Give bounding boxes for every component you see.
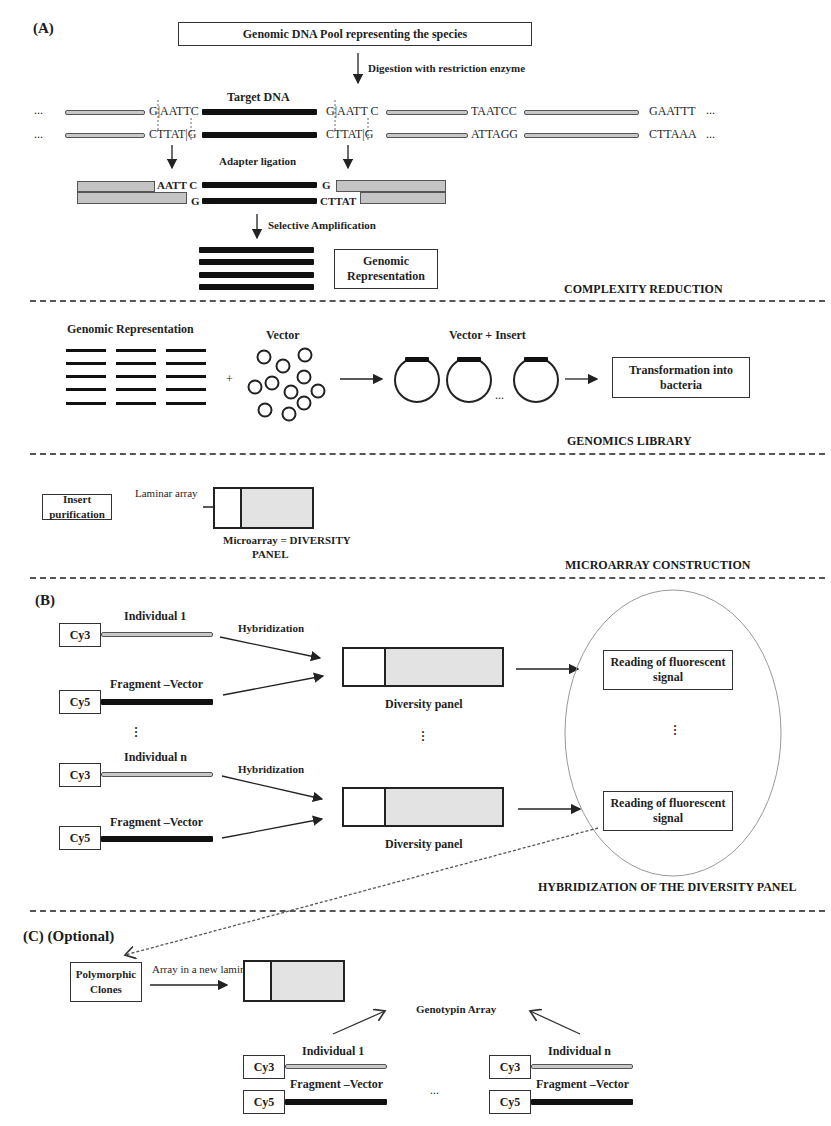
individual-n-label-c: Individual n [548, 1044, 611, 1059]
diversity-panel-caption: Diversity panel [385, 837, 463, 852]
cy5-label-box: Cy5 [59, 826, 101, 850]
fragment-vector-label: Fragment –Vector [110, 677, 203, 692]
grey-strand [65, 110, 145, 115]
fragment-vector-strand [531, 1099, 633, 1105]
individual-strand [285, 1064, 387, 1069]
diversity-panel-caption: Diversity panel [385, 697, 463, 712]
reading-signal-box-1: Reading of fluorescent signal [603, 650, 733, 690]
section-divider [30, 910, 825, 912]
ligated-strand [202, 182, 317, 188]
fragment-vector-label: Fragment –Vector [110, 815, 203, 830]
grey-strand [386, 133, 468, 138]
amplified-strand [199, 284, 314, 290]
genomic-representation-label: Genomic Representation [67, 322, 194, 337]
vector-insert-label: Vector + Insert [449, 328, 526, 343]
grey-strand [386, 110, 468, 115]
section-title-hybridization: HYBRIDIZATION OF THE DIVERSITY PANEL [538, 880, 797, 895]
seq-attagg: ATTAGG [471, 127, 518, 142]
microarray-diversity-panel [213, 487, 314, 529]
seq-top-left-site: G|AATTC [149, 104, 199, 119]
adapter-ligation-label: Adapter ligation [219, 155, 296, 167]
section-divider [30, 300, 825, 302]
cy3-label-box: Cy3 [59, 763, 101, 787]
ligated-strand [202, 198, 317, 204]
section-divider [30, 577, 825, 579]
vector-plasmids [249, 349, 325, 421]
microarray-caption-line1: Microarray = DIVERSITY [223, 534, 351, 546]
seq-gaattt: GAATTT [649, 104, 696, 119]
seq-aatt-c: AATT C [157, 179, 197, 191]
diversity-panel-1 [342, 647, 504, 687]
grey-strand [65, 133, 145, 138]
cy3-label-box: Cy3 [243, 1055, 285, 1079]
amplified-strand [199, 259, 314, 265]
cy5-label-box: Cy5 [489, 1090, 531, 1114]
adapter-block [77, 181, 155, 192]
recombinant-plasmids [395, 358, 558, 402]
ellipsis-bottom-right: ... [706, 127, 715, 142]
ellipsis-bottom-left: ... [34, 127, 43, 142]
polymorphic-link-arrow [125, 828, 598, 955]
diversity-panel-n [342, 787, 504, 827]
microarray-caption-line2: PANEL [252, 548, 288, 560]
adapter-block [336, 180, 446, 192]
ellipsis-top-right: ... [706, 103, 715, 118]
section-title-genomics-library: GENOMICS LIBRARY [567, 434, 692, 449]
cy5-label-box: Cy5 [59, 690, 101, 714]
genomic-representation-box: Genomic Representation [334, 249, 438, 289]
individual-strand [101, 632, 213, 637]
hybridization-label: Hybridization [238, 763, 304, 775]
amplified-strand [199, 272, 314, 278]
fragment-vector-strand [285, 1099, 387, 1105]
cy5-label-box: Cy5 [243, 1090, 285, 1114]
genotyping-array-caption: Genotypin Array [416, 1003, 496, 1015]
grey-strand [524, 133, 639, 138]
fragment-vector-label-c: Fragment –Vector [536, 1077, 629, 1092]
adapter-block [360, 192, 446, 204]
individual-strand [531, 1064, 633, 1069]
cy3-label-box: Cy3 [59, 623, 101, 647]
genotyping-array [243, 960, 345, 1002]
plasmid-ellipsis: ... [495, 388, 504, 403]
vdots-right: ··· [673, 724, 677, 736]
fragment-vector-label-c: Fragment –Vector [290, 1077, 383, 1092]
seq-g-bottom: G [191, 195, 200, 207]
seq-bottom-left-site: CTTAT|G [149, 127, 196, 142]
grey-strand [524, 110, 639, 115]
reading-signal-box-n: Reading of fluorescent signal [603, 791, 733, 831]
fragment-vector-strand [101, 836, 213, 842]
selective-amplification-label: Selective Amplification [268, 219, 376, 231]
individuals-ellipsis: ... [430, 1083, 439, 1098]
seq-taatcc: TAATCC [471, 104, 517, 119]
transformation-box: Transformation into bacteria [612, 357, 750, 398]
individual-strand [101, 772, 213, 777]
seq-cttaaa: CTTAAA [649, 127, 697, 142]
target-dna-label: Target DNA [227, 90, 290, 105]
vdots-left: ··· [134, 726, 138, 738]
cy3-label-box: Cy3 [489, 1055, 531, 1079]
array-new-lamina-label: Array in a new lamina [152, 963, 250, 975]
digestion-label: Digestion with restriction enzyme [368, 62, 525, 74]
hybridization-label: Hybridization [238, 622, 304, 634]
laminar-array-label: Laminar array [135, 487, 198, 499]
vdots-middle: ··· [421, 730, 425, 742]
individual-1-label-c: Individual 1 [302, 1044, 364, 1059]
plus-sign: + [226, 372, 233, 387]
seq-bottom-right-site: CTTAT|G [326, 127, 373, 142]
vector-label: Vector [266, 328, 300, 343]
fragment-vector-strand [101, 699, 213, 705]
adapter-block [77, 192, 187, 204]
target-dna-strand [202, 132, 317, 138]
seq-cttat: CTTAT [320, 195, 356, 207]
panel-c-tag: (C) (Optional) [23, 928, 114, 945]
section-divider [30, 453, 825, 455]
ellipsis-top-left: ... [34, 103, 43, 118]
polymorphic-clones-box: Polymorphic Clones [70, 962, 142, 1002]
target-dna-strand [202, 109, 317, 115]
panel-b-tag: (B) [35, 592, 55, 609]
seq-top-right-site: G|AATT C [326, 104, 379, 119]
individual-n-label: Individual n [124, 750, 187, 765]
section-title-microarray-construction: MICROARRAY CONSTRUCTION [565, 558, 750, 573]
insert-purification-box: Insert purification [42, 494, 112, 520]
individual-1-label: Individual 1 [124, 609, 186, 624]
